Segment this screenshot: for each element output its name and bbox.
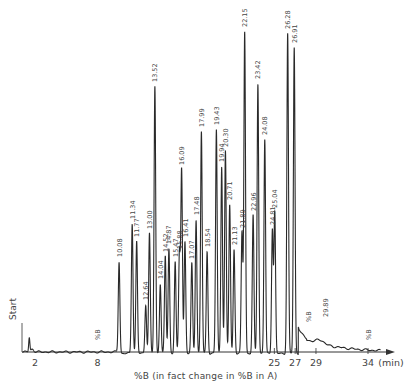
peak-label: 12.64 (142, 281, 150, 300)
peak-label: 23.42 (254, 60, 262, 79)
chromatogram-chart: Start2825272934(min) 10.0811.3411.7712.6… (0, 0, 413, 389)
x-axis-arrow-icon (386, 349, 395, 355)
chromatogram-plot: Start2825272934(min) 10.0811.3411.7712.6… (0, 0, 413, 389)
peak-label: 22.96 (250, 192, 258, 211)
x-tick-label: 34 (362, 357, 374, 368)
annotation-label: %B (305, 311, 313, 322)
x-tick-label: 2 (32, 357, 38, 368)
peak-label: 25.04 (271, 189, 279, 208)
peak-label: 16.09 (178, 146, 186, 165)
peak-label: 13.52 (151, 63, 159, 82)
peak-label: 14.04 (157, 260, 165, 279)
peak-label: 19.43 (213, 106, 221, 125)
peak-label: 21.89 (239, 209, 247, 228)
peak-label: 10.08 (116, 238, 124, 257)
peak-label: 17.07 (188, 240, 196, 259)
peak-label: 11.77 (133, 218, 141, 237)
peak-label: 17.99 (198, 108, 206, 127)
x-tick-label: 8 (94, 357, 100, 368)
peak-label: 16.41 (182, 218, 190, 237)
peak-label: 11.34 (129, 200, 137, 219)
peak-label: 13.00 (146, 210, 154, 229)
start-label: Start (8, 298, 18, 320)
x-tick-label: 27 (289, 357, 301, 368)
peak-label: 21.13 (231, 226, 239, 245)
x-tick-label: 25 (268, 357, 280, 368)
x-unit-label: (min) (378, 357, 403, 368)
peak-label: 18.54 (204, 228, 212, 247)
peak-label: 22.15 (241, 8, 249, 27)
peak-label: 17.48 (193, 196, 201, 215)
annotation-label: %B (94, 329, 102, 340)
peak-label: 24.81 (269, 206, 277, 225)
peak-label: 20.71 (226, 181, 234, 200)
peak-label: 24.08 (261, 116, 269, 135)
x-tick-label: 29 (310, 357, 322, 368)
peak-label: 26.91 (291, 24, 299, 43)
peak-label: 20.30 (222, 128, 230, 147)
annotation-label: %B (365, 329, 373, 340)
x-axis-label: %B (in fact change in %B in A) (134, 371, 278, 381)
annotation-label: 29.89 (322, 298, 330, 317)
